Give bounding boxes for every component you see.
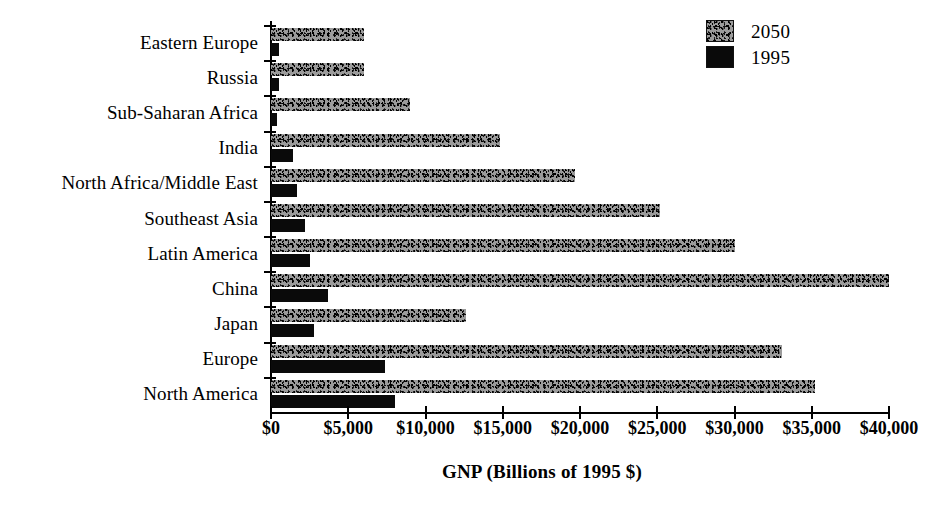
bar-1995: [271, 395, 395, 408]
y-axis-label: Latin America: [147, 244, 258, 263]
bar-2050: [271, 63, 364, 76]
y-axis-category-labels: Eastern EuropeRussiaSub-Saharan AfricaIn…: [0, 25, 264, 412]
x-axis-title: GNP (Billions of 1995 $): [0, 461, 939, 483]
x-axis-tick-labels: $0$5,000$10,000$15,000$20,000$25,000$30,…: [0, 419, 939, 447]
x-axis-tick-label: $30,000: [705, 419, 764, 437]
bar-1995: [271, 43, 279, 56]
plot-area: [271, 25, 889, 412]
y-axis-label: Europe: [203, 349, 258, 368]
bar-2050: [271, 274, 889, 287]
bar-group: [271, 131, 889, 166]
bar-2050: [271, 28, 364, 41]
bar-1995: [271, 289, 328, 302]
bar-1995: [271, 149, 293, 162]
x-axis-title-text: GNP (Billions of 1995 $): [442, 461, 642, 483]
bar-group: [271, 236, 889, 271]
y-axis-label: Sub-Saharan Africa: [107, 103, 258, 122]
bar-2050: [271, 169, 575, 182]
x-axis-tick-label: $0: [262, 419, 280, 437]
y-axis-label: India: [218, 138, 258, 157]
x-axis-tick-label: $35,000: [783, 419, 842, 437]
bar-1995: [271, 324, 314, 337]
bar-2050: [271, 98, 410, 111]
bar-1995: [271, 184, 297, 197]
bar-group: [271, 201, 889, 236]
bar-2050: [271, 239, 735, 252]
y-axis-label: North America: [143, 384, 258, 403]
x-axis-tick-label: $5,000: [324, 419, 374, 437]
y-axis-label: Eastern Europe: [140, 33, 258, 52]
bar-group: [271, 271, 889, 306]
bar-group: [271, 306, 889, 341]
bar-2050: [271, 134, 500, 147]
bar-group: [271, 166, 889, 201]
bar-group: [271, 60, 889, 95]
bar-1995: [271, 113, 277, 126]
x-axis-tick-label: $10,000: [396, 419, 455, 437]
bar-1995: [271, 219, 305, 232]
y-axis-label: North Africa/Middle East: [61, 173, 258, 192]
y-axis-label: China: [212, 279, 258, 298]
bar-2050: [271, 309, 466, 322]
x-axis-tick-label: $25,000: [628, 419, 687, 437]
bar-group: [271, 95, 889, 130]
gnp-bar-chart: 2050 1995 Eastern EuropeRussiaSub-Sahara…: [0, 0, 939, 505]
x-axis-tick-label: $20,000: [551, 419, 610, 437]
bar-group: [271, 25, 889, 60]
x-axis-tick-label: $15,000: [474, 419, 533, 437]
bar-group: [271, 342, 889, 377]
bar-1995: [271, 78, 279, 91]
bar-2050: [271, 345, 782, 358]
bar-2050: [271, 204, 660, 217]
y-axis-label: Russia: [207, 68, 258, 87]
bar-1995: [271, 360, 385, 373]
bar-2050: [271, 380, 815, 393]
bar-1995: [271, 254, 310, 267]
y-axis-label: Southeast Asia: [144, 209, 258, 228]
x-axis-tick-label: $40,000: [860, 419, 919, 437]
y-axis-label: Japan: [214, 314, 258, 333]
